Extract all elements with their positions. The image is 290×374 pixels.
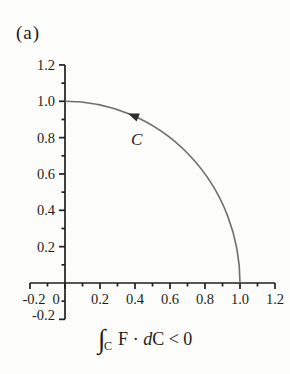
x-tick-label: 0 (52, 291, 59, 307)
y-tick-label: 0.6 (37, 166, 55, 182)
y-tick-label: 0.2 (37, 239, 55, 255)
x-tick-label: -0.2 (23, 291, 46, 307)
caption-segment: C < 0 (152, 329, 192, 349)
x-tick-label: 0.4 (126, 291, 145, 307)
caption-segment: F (118, 329, 128, 349)
x-tick-label: 0.2 (91, 291, 109, 307)
direction-arrow-icon (128, 113, 140, 121)
y-tick-label: 0.8 (37, 130, 55, 146)
x-tick-label: 1.0 (231, 291, 249, 307)
curve-label: C (131, 130, 143, 149)
figure-panel: (a) -0.200.20.40.60.81.01.2-0.20.20.40.6… (0, 0, 290, 374)
x-tick-label: 0.8 (196, 291, 214, 307)
x-tick-label: 0.6 (161, 291, 179, 307)
x-tick-label: 1.2 (266, 291, 284, 307)
quarter-circle-plot: -0.200.20.40.60.81.01.2-0.20.20.40.60.81… (0, 0, 290, 330)
caption: ∫CF · dC < 0 (0, 327, 290, 350)
curve-C (65, 101, 240, 283)
y-tick-label: 1.0 (37, 93, 55, 109)
y-tick-label: 1.2 (37, 57, 55, 73)
caption-segment: C (104, 339, 112, 353)
caption-segment: d (143, 329, 152, 349)
y-tick-label: 0.4 (37, 202, 56, 218)
y-tick-label: -0.2 (32, 307, 55, 323)
caption-segment: · (128, 329, 143, 349)
axes (30, 65, 275, 319)
